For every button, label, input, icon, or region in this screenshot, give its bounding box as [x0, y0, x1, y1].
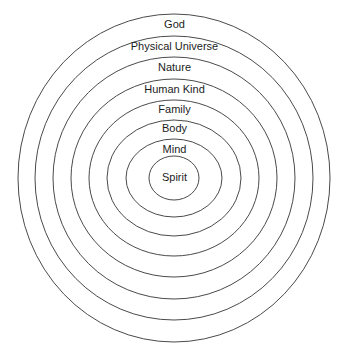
ring-label-human-kind: Human Kind — [0, 84, 349, 95]
ring-label-mind: Mind — [0, 144, 349, 155]
ring-label-physical-universe: Physical Universe — [0, 41, 349, 52]
ring-label-god: God — [0, 19, 349, 30]
ring-label-nature: Nature — [0, 62, 349, 73]
ring-label-spirit: Spirit — [0, 172, 349, 183]
ring-label-body: Body — [0, 123, 349, 134]
ring-label-family: Family — [0, 104, 349, 115]
concentric-hierarchy-diagram: God Physical Universe Nature Human Kind … — [0, 0, 349, 361]
